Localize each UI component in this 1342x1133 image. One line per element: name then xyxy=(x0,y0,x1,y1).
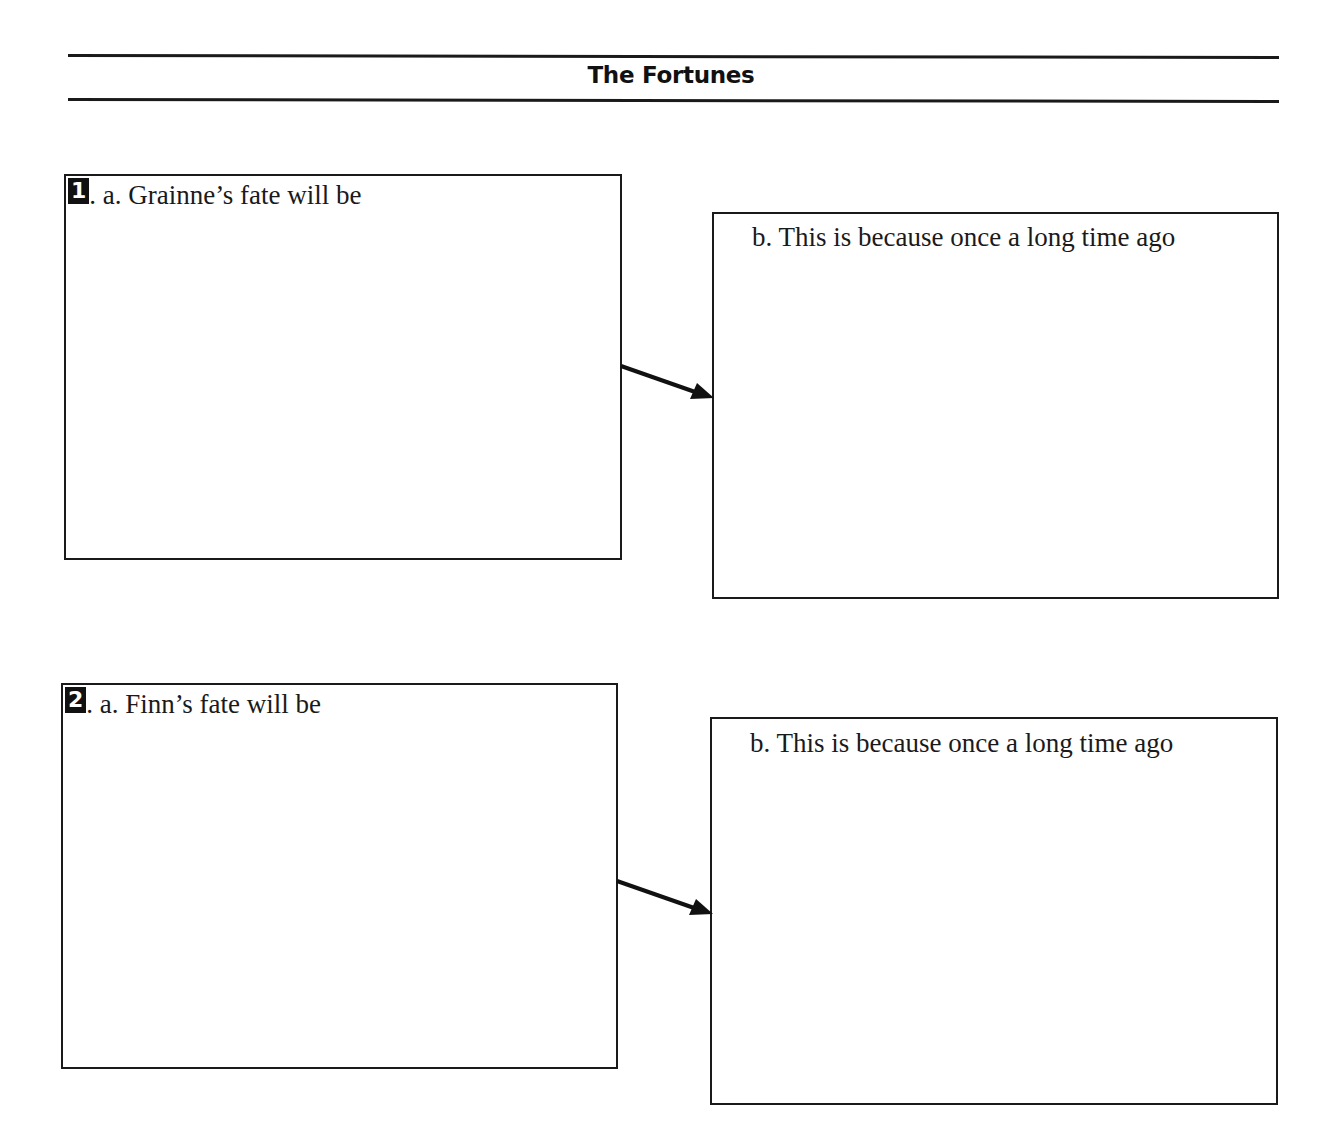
answer-box-1a[interactable] xyxy=(64,174,622,560)
question-number-badge: 1 xyxy=(68,178,89,204)
top-rule xyxy=(68,54,1279,59)
answer-box-2b[interactable] xyxy=(710,717,1278,1105)
prompt-2a-text: . a. Finn’s fate will be xyxy=(86,689,321,719)
title-underline-rule xyxy=(68,98,1279,103)
prompt-1a: 1. a. Grainne’s fate will be xyxy=(68,180,361,211)
answer-box-1b[interactable] xyxy=(712,212,1279,599)
prompt-2b: b. This is because once a long time ago xyxy=(750,728,1173,759)
prompt-1a-text: . a. Grainne’s fate will be xyxy=(89,180,361,210)
page-title: The Fortunes xyxy=(0,62,1342,88)
question-number-badge: 2 xyxy=(65,687,86,713)
answer-box-2a[interactable] xyxy=(61,683,618,1069)
prompt-2a: 2. a. Finn’s fate will be xyxy=(65,689,321,720)
prompt-1b: b. This is because once a long time ago xyxy=(752,222,1175,253)
